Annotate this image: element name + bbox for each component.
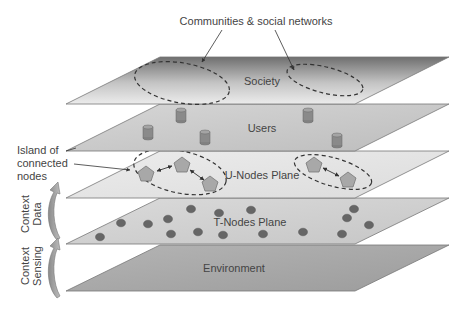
plane-society: Society <box>66 55 449 111</box>
t-node-dot-icon <box>96 233 105 241</box>
user-cylinder-icon <box>303 108 313 123</box>
island-label-line-3: nodes <box>17 170 47 182</box>
curved-up-arrow-icon <box>48 238 60 298</box>
t-node-dot-icon <box>187 205 196 213</box>
plane-label-users: Users <box>248 122 277 134</box>
user-cylinder-icon <box>176 108 186 123</box>
t-node-dot-icon <box>117 219 126 227</box>
plane-users: Users <box>66 104 449 151</box>
curved-up-arrow-icon <box>48 182 60 240</box>
plane-environment: Environment <box>66 245 449 291</box>
t-node-dot-icon <box>144 220 153 228</box>
plane-label-society: Society <box>244 75 281 87</box>
t-node-dot-icon <box>167 230 176 238</box>
t-node-dot-icon <box>247 206 256 214</box>
layered-architecture-diagram: Environment T-Nodes Plane U-Nodes Plane <box>0 0 466 312</box>
plane-label-u-nodes: U-Nodes Plane <box>225 169 300 181</box>
context-sensing-annotation: Context Sensing <box>19 238 60 298</box>
user-cylinder-icon <box>143 125 153 140</box>
t-node-dot-icon <box>343 214 352 222</box>
user-cylinder-icon <box>200 130 210 145</box>
t-node-dot-icon <box>338 230 347 238</box>
t-node-dot-icon <box>194 228 203 236</box>
context-data-line-1: Context <box>19 195 31 233</box>
t-node-dot-icon <box>365 221 374 229</box>
plane-label-t-nodes: T-Nodes Plane <box>214 216 287 228</box>
t-node-dot-icon <box>299 228 308 236</box>
context-sensing-line-1: Context <box>19 247 31 285</box>
island-label-line-1: Island of <box>17 144 60 156</box>
t-node-dot-icon <box>164 215 173 223</box>
context-data-line-2: Data <box>31 202 43 226</box>
context-sensing-line-2: Sensing <box>31 246 43 286</box>
context-data-annotation: Context Data <box>19 182 60 240</box>
plane-label-environment: Environment <box>203 262 265 274</box>
island-label-line-2: connected <box>17 157 68 169</box>
user-cylinder-icon <box>332 133 342 148</box>
t-node-dot-icon <box>219 231 228 239</box>
communities-label: Communities & social networks <box>180 15 333 27</box>
t-node-dot-icon <box>259 230 268 238</box>
t-node-dot-icon <box>350 205 359 213</box>
plane-t-nodes: T-Nodes Plane <box>66 198 449 244</box>
